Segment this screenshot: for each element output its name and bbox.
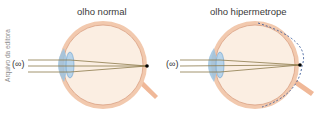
lens [216, 52, 224, 78]
lens [66, 52, 74, 78]
hyperopic-eye [180, 21, 314, 109]
focus-point [145, 64, 149, 68]
infinity-label-normal: (∞) [12, 59, 24, 69]
infinity-label-hyperopic: (∞) [166, 59, 178, 69]
focus-point [298, 63, 302, 67]
normal-eye [28, 21, 158, 109]
eye-diagram [0, 0, 317, 115]
